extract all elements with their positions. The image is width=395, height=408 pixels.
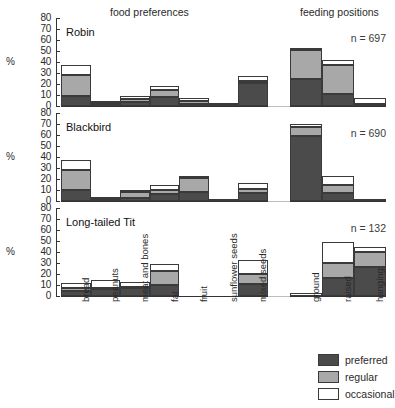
y-tick-label: 30: [31, 163, 51, 173]
bar-segment-preferred: [238, 193, 268, 201]
panel-header-food-preferences: food preferences: [110, 6, 189, 18]
bar-segment-occasional: [91, 101, 121, 103]
plot-feeding-positions: [290, 113, 386, 202]
bar-segment-regular: [322, 185, 354, 194]
legend-swatch-preferred: [318, 354, 339, 366]
species-row-blackbird: 80706050403020100%Blackbirdn = 690: [0, 113, 394, 208]
bar-segment-regular: [179, 101, 209, 104]
y-axis-spine: [56, 113, 57, 201]
y-tick-label: 70: [31, 24, 51, 34]
y-tick-mark: [56, 201, 60, 202]
y-tick-label: 20: [31, 174, 51, 184]
y-tick-label: 10: [31, 185, 51, 195]
baseline-extension: [268, 201, 290, 202]
bar-segment-preferred: [150, 194, 180, 201]
x-tick-label-peanuts: peanuts: [109, 268, 120, 302]
y-tick-label: 50: [31, 141, 51, 151]
y-tick-label: 80: [31, 13, 51, 23]
x-tick-label-sunflower-seeds: sunflower seeds: [228, 233, 239, 302]
y-tick-label: 50: [31, 46, 51, 56]
species-row-long-tailed-tit: 80706050403020100%Long-tailed Titn = 132: [0, 208, 394, 303]
x-tick-label-ground: ground: [310, 272, 321, 302]
y-tick-label: 30: [31, 258, 51, 268]
x-tick-label-raised: raised: [342, 276, 353, 302]
bar-segment-preferred: [290, 136, 322, 201]
x-tick-label-fruit: fruit: [198, 286, 209, 302]
y-tick-label: 40: [31, 152, 51, 162]
y-axis: 80706050403020100: [27, 18, 61, 106]
bar-segment-occasional: [238, 183, 268, 189]
x-tick-label-bread: bread: [80, 278, 91, 302]
bar-segment-regular: [150, 90, 180, 98]
bar-segment-regular: [290, 50, 322, 79]
y-axis: 80706050403020100: [27, 208, 61, 296]
bar-segment-occasional: [354, 98, 386, 104]
bar-segment-occasional: [150, 185, 180, 191]
bar-segment-occasional: [209, 199, 239, 201]
y-tick-label: 80: [31, 203, 51, 213]
legend-swatch-regular: [318, 371, 339, 383]
bar-segment-preferred: [150, 97, 180, 106]
y-axis-spine: [56, 208, 57, 296]
bar-segment-preferred: [61, 190, 91, 201]
y-axis-title: %: [6, 56, 15, 67]
bar-segment-occasional: [322, 60, 354, 66]
bar-segment-preferred: [61, 96, 91, 106]
y-axis-spine: [56, 18, 57, 106]
bar-segment-occasional: [150, 86, 180, 89]
y-tick-label: 20: [31, 269, 51, 279]
panel-header-feeding-positions: feeding positions: [300, 6, 379, 18]
bar-segment-occasional: [290, 124, 322, 127]
bar-segment-occasional: [120, 96, 150, 99]
legend-label: regular: [345, 371, 378, 383]
x-tick-label-mixed-seeds: mixed seeds: [257, 249, 268, 302]
bar-segment-occasional: [179, 176, 209, 178]
bar-segment-occasional: [120, 190, 150, 192]
bar-segment-preferred: [238, 83, 268, 106]
y-tick-label: 40: [31, 247, 51, 257]
bar-segment-occasional: [61, 65, 91, 75]
bar-segment-preferred: [179, 104, 209, 106]
y-tick-label: 20: [31, 79, 51, 89]
bar-segment-occasional: [150, 264, 180, 271]
y-tick-label: 10: [31, 280, 51, 290]
y-axis-title: %: [6, 246, 15, 257]
y-tick-label: 80: [31, 108, 51, 118]
bar-segment-regular: [238, 81, 268, 83]
x-tick-label-meat-and-bones: meat and bones: [139, 234, 150, 302]
y-tick-label: 10: [31, 90, 51, 100]
bar-segment-regular: [61, 75, 91, 96]
bar-segment-regular: [290, 127, 322, 136]
legend-label: preferred: [345, 354, 388, 366]
plot-feeding-positions: [290, 208, 386, 297]
y-tick-label: 30: [31, 68, 51, 78]
bar-segment-regular: [150, 190, 180, 194]
bar-segment-regular: [91, 103, 121, 105]
bar-segment-regular: [238, 189, 268, 193]
y-axis: 80706050403020100: [27, 113, 61, 201]
bar-segment-preferred: [120, 102, 150, 106]
bar-segment-preferred: [120, 198, 150, 201]
y-tick-label: 60: [31, 130, 51, 140]
bar-segment-occasional: [179, 98, 209, 100]
y-tick-label: 60: [31, 225, 51, 235]
bar-segment-occasional: [91, 197, 121, 199]
bar-segment-occasional: [209, 103, 239, 105]
bar-segment-regular: [120, 99, 150, 101]
x-tick-label-hanging: hanging: [374, 268, 385, 302]
bar-segment-preferred: [179, 192, 209, 201]
y-tick-mark: [56, 106, 60, 107]
bar-segment-occasional: [322, 176, 354, 185]
baseline-extension: [268, 296, 290, 297]
plot-food-preferences: [61, 18, 268, 107]
y-tick-label: 70: [31, 214, 51, 224]
baseline-extension: [268, 106, 290, 107]
bar-segment-regular: [354, 252, 386, 267]
bar-segment-regular: [179, 178, 209, 192]
bar-segment-regular: [150, 271, 180, 285]
y-tick-mark: [56, 296, 60, 297]
plot-feeding-positions: [290, 18, 386, 107]
bar-segment-regular: [120, 192, 150, 198]
bar-segment-regular: [322, 65, 354, 94]
